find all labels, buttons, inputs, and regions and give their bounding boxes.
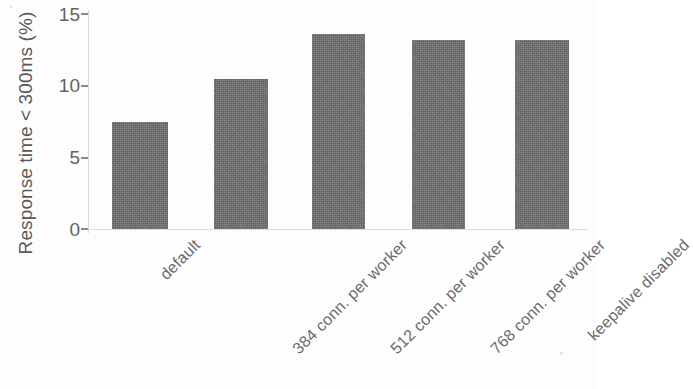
y-tick-mark-10 — [81, 85, 88, 87]
bar-768-conn-per-worker — [412, 40, 465, 229]
y-axis-title: Response time < 300ms (%) — [11, 8, 41, 258]
scan-artifact — [10, 6, 12, 8]
bar-keepalive-disabled — [515, 40, 569, 229]
scan-artifact — [560, 352, 563, 355]
y-tick-mark-0 — [81, 228, 88, 230]
y-tick-mark-5 — [81, 157, 88, 159]
y-tick-label-10: 10 — [38, 76, 80, 95]
x-tick-label-default: default — [156, 236, 204, 284]
x-axis-line — [88, 229, 588, 230]
x-tick-label-768-conn-per-worker: 768 conn. per worker — [487, 236, 609, 358]
plot-area — [88, 14, 584, 229]
y-axis-tick-labels: 15 10 5 0 — [38, 0, 80, 389]
y-tick-label-5: 5 — [38, 148, 80, 167]
y-tick-label-15: 15 — [38, 5, 80, 24]
y-tick-label-0: 0 — [38, 220, 80, 239]
bar-512-conn-per-worker — [312, 34, 365, 229]
y-tick-mark-15 — [81, 13, 88, 15]
bar-384-conn-per-worker — [214, 79, 268, 230]
bar-default — [112, 122, 168, 230]
